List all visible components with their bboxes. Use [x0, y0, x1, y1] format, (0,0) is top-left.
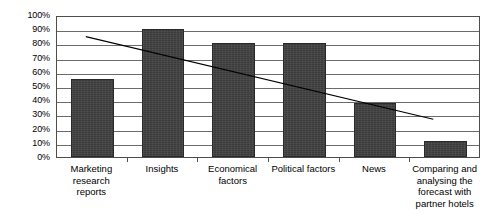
y-tick-label: 70%	[2, 54, 50, 63]
x-axis-label: Marketing research reports	[57, 163, 126, 198]
trendline	[57, 17, 479, 157]
x-axis: Marketing research reportsInsightsEconom…	[56, 163, 480, 213]
y-tick-label: 60%	[2, 68, 50, 77]
x-axis-label: Insights	[128, 163, 197, 175]
y-tick-label: 10%	[2, 139, 50, 148]
x-tick	[268, 158, 269, 162]
y-tick-label: 0%	[2, 153, 50, 162]
y-axis: 100%90%80%70%60%50%40%30%20%10%0%	[0, 0, 50, 213]
y-tick-label: 40%	[2, 96, 50, 105]
x-tick	[339, 158, 340, 162]
x-tick	[409, 158, 410, 162]
x-axis-label: Economical factors	[198, 163, 267, 186]
bar-chart: 100%90%80%70%60%50%40%30%20%10%0% Market…	[0, 0, 497, 213]
y-tick-label: 50%	[2, 82, 50, 91]
y-tick-label: 20%	[2, 125, 50, 134]
x-axis-label: News	[340, 163, 409, 175]
y-tick-label: 80%	[2, 39, 50, 48]
y-tick-label: 90%	[2, 25, 50, 34]
x-axis-label: Political factors	[269, 163, 338, 175]
plot-area	[56, 16, 480, 158]
x-tick	[197, 158, 198, 162]
y-tick-label: 30%	[2, 110, 50, 119]
trendline-path	[86, 37, 433, 120]
y-tick-label: 100%	[2, 11, 50, 20]
x-tick	[127, 158, 128, 162]
x-axis-label: Comparing and analysing the forecast wit…	[410, 163, 479, 209]
